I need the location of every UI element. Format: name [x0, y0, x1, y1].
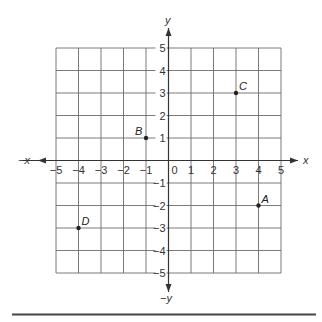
x-tick-labels: −5−4−3−2−1012345 [50, 164, 284, 176]
y-tick-label: −3 [153, 222, 166, 234]
x-axis-negative-label: −x [18, 154, 30, 166]
x-tick-label: 0 [172, 164, 178, 176]
y-axis-label: y [164, 14, 172, 26]
x-axis-label: x [302, 154, 309, 166]
y-tick-label: 4 [159, 65, 165, 77]
x-tick-label: −3 [95, 164, 108, 176]
x-tick-label: 3 [233, 164, 239, 176]
y-tick-label: 5 [159, 42, 165, 54]
x-tick-label: 5 [278, 164, 284, 176]
point-label-a: A [261, 193, 269, 205]
y-axis-arrow-up-icon [166, 28, 172, 36]
y-axis-arrow-down-icon [166, 284, 172, 292]
point-c [234, 91, 238, 95]
data-points: ABCD [76, 80, 269, 230]
y-tick-label: −5 [153, 267, 166, 279]
x-axis-arrow-right-icon [290, 158, 298, 164]
point-b [144, 136, 148, 140]
coordinate-plane: x −x y −y −5−4−3−2−1012345 54321−1−2−3−4… [0, 0, 322, 322]
x-axis-arrow-left-icon [38, 158, 46, 164]
point-label-b: B [135, 125, 142, 137]
x-tick-label: 4 [255, 164, 261, 176]
x-tick-label: −4 [72, 164, 85, 176]
x-tick-label: −2 [117, 164, 130, 176]
x-tick-label: −5 [50, 164, 63, 176]
x-tick-label: −1 [140, 164, 153, 176]
y-tick-label: −4 [153, 245, 166, 257]
y-tick-label: 3 [159, 87, 165, 99]
y-tick-label: 1 [159, 132, 165, 144]
axes: x −x y −y [18, 14, 309, 304]
point-a [256, 203, 260, 207]
x-tick-label: 1 [188, 164, 194, 176]
y-tick-label: 2 [159, 110, 165, 122]
y-axis-negative-label: −y [160, 292, 173, 304]
point-label-c: C [239, 80, 247, 92]
point-label-d: D [82, 215, 90, 227]
point-d [76, 226, 80, 230]
x-tick-label: 2 [210, 164, 216, 176]
y-tick-label: −2 [153, 200, 166, 212]
y-tick-label: −1 [153, 177, 166, 189]
